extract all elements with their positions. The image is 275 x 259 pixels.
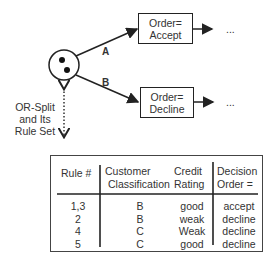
header-credit-rating: Credit Rating <box>174 165 204 190</box>
branch-a-label: A <box>102 46 109 58</box>
branch-b-label: B <box>102 77 109 89</box>
or-split-node <box>49 50 79 80</box>
rule-column: 1,3 2 4 5 <box>67 200 89 250</box>
decline-continuation: ... <box>226 96 235 108</box>
order-accept-line1: Order= <box>139 17 192 29</box>
accept-continuation: ... <box>226 23 235 35</box>
rating-column: good weak Weak good <box>174 200 210 250</box>
order-decline-box: Order= Decline <box>140 87 194 118</box>
decision-column: accept decline decline decline <box>219 200 259 250</box>
order-decline-line2: Decline <box>141 103 193 115</box>
classification-column: B B C C <box>130 200 150 250</box>
order-accept-line2: Accept <box>139 29 192 41</box>
order-decline-line1: Order= <box>141 91 193 103</box>
header-rule: Rule # <box>61 167 91 180</box>
header-classification: Customer Classification <box>105 165 170 190</box>
order-accept-box: Order= Accept <box>138 13 193 44</box>
header-decision: Decision Order = <box>217 165 257 190</box>
or-split-label: OR-Split and Its Rule Set <box>12 101 58 137</box>
